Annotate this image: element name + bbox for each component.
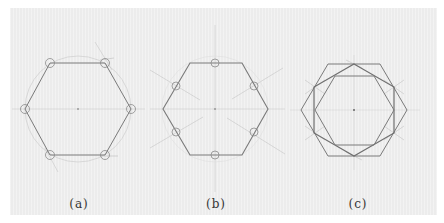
label-c: (c) — [338, 197, 378, 211]
panel-c — [290, 55, 420, 170]
panel-b — [150, 25, 285, 192]
center-dot-a — [77, 108, 79, 110]
radial-line-b4 — [227, 118, 285, 154]
label-a: (a) — [59, 197, 99, 211]
center-dot-c — [353, 109, 355, 111]
label-b: (b) — [196, 197, 236, 211]
construction-line-a1 — [95, 42, 112, 70]
panel-a — [12, 42, 145, 172]
hexagon-construction-figure — [0, 0, 444, 223]
center-dot-b — [214, 108, 216, 110]
